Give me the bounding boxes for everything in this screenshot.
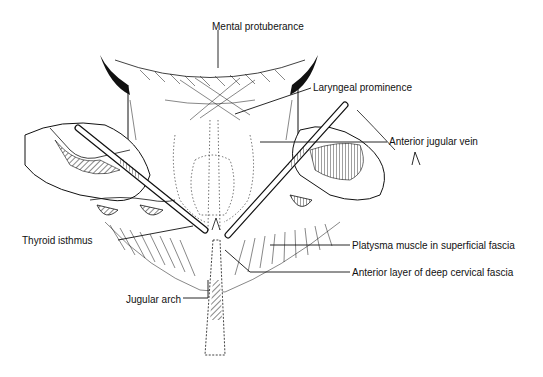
label-platysma-muscle: Platysma muscle in superficial fascia	[352, 240, 515, 252]
label-anterior-jugular-vein: Anterior jugular vein	[389, 136, 478, 148]
label-mental-protuberance: Mental protuberance	[212, 21, 304, 33]
neck-illustration	[0, 0, 543, 377]
label-anterior-layer-deep-cervical-fascia: Anterior layer of deep cervical fascia	[352, 267, 513, 279]
jaw-shadow-left	[100, 55, 130, 95]
anatomy-diagram: Mental protuberance Laryngeal prominence…	[0, 0, 543, 377]
label-laryngeal-prominence: Laryngeal prominence	[313, 82, 412, 94]
label-thyroid-isthmus: Thyroid isthmus	[22, 235, 93, 247]
label-jugular-arch: Jugular arch	[126, 294, 181, 306]
